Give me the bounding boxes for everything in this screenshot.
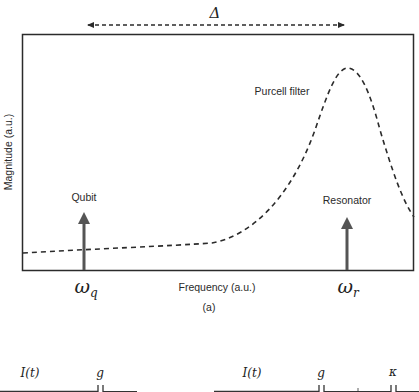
purcell-filter-label: Purcell filter [255,85,310,97]
omega-symbol: ω [74,275,90,297]
panel-label: (a) [203,301,216,313]
x-axis-label: Frequency (a.u.) [178,281,255,293]
right-coupling-label: g [317,366,325,380]
omega-subscript: q [90,286,98,300]
right-decay-label: κ [389,365,397,379]
left-coupling-label: g [96,366,104,380]
left-circuit [0,385,137,392]
delta-label: Δ [210,4,221,22]
qubit-arrow [78,212,90,270]
y-axis-label: Magnitude (a.u.) [2,114,14,190]
left-current-label: I(t) [21,366,40,380]
right-circuit [214,385,419,392]
purcell-filter-curve [23,68,414,253]
resonator-arrow [341,217,353,270]
qubit-label: Qubit [71,191,96,203]
right-current-label: I(t) [243,366,262,380]
plot-frame [23,35,414,271]
omega-symbol: ω [337,275,353,297]
omega-subscript: r [353,286,359,300]
omega-q-tick: ωq [74,275,97,300]
resonator-label: Resonator [323,194,371,206]
omega-r-tick: ωr [337,275,358,300]
